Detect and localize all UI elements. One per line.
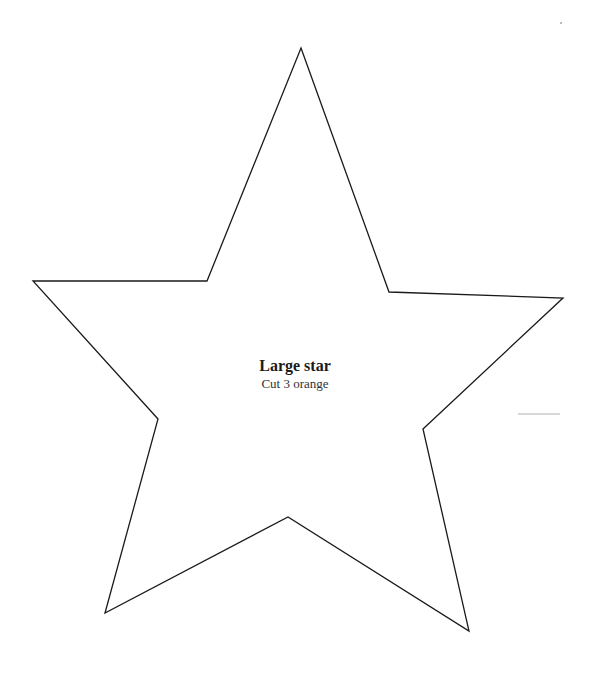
- scan-artifact-dot: [560, 22, 562, 24]
- star-shape: [33, 48, 563, 631]
- star-title: Large star: [200, 356, 390, 375]
- large-star-outline: [0, 0, 597, 673]
- printable-template-page: Large star Cut 3 orange: [0, 0, 597, 673]
- cut-instruction: Cut 3 orange: [200, 375, 390, 392]
- scan-artifact-line: [518, 413, 560, 415]
- star-label: Large star Cut 3 orange: [200, 356, 390, 392]
